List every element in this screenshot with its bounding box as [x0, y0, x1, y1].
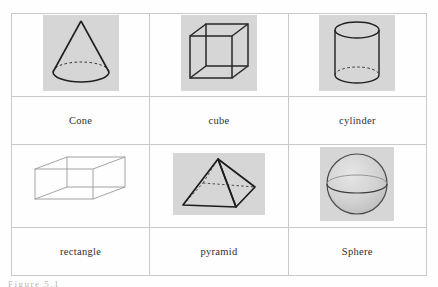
cell-figure-cube — [150, 14, 288, 97]
shape-label: pyramid — [150, 245, 287, 258]
cylinder-icon — [319, 15, 395, 91]
table-row-labels-top: Cone cube cylinder — [12, 97, 427, 145]
cell-label-cylinder: cylinder — [288, 97, 426, 145]
cell-label-pyramid: pyramid — [150, 228, 288, 276]
sphere-icon — [320, 147, 394, 221]
cell-label-rectangle: rectangle — [12, 228, 150, 276]
table-row-figures-top — [12, 14, 427, 97]
cell-figure-rectangle — [12, 145, 150, 228]
cube-icon — [181, 15, 257, 91]
figure-caption: Figure 5.1 — [8, 279, 60, 287]
cone-icon — [43, 15, 119, 91]
cell-label-cone: Cone — [12, 97, 150, 145]
cell-figure-cone — [12, 14, 150, 97]
shape-label: cube — [150, 114, 287, 127]
cell-figure-sphere — [288, 145, 426, 228]
cell-figure-pyramid — [150, 145, 288, 228]
shape-label: Cone — [12, 114, 149, 127]
table-row-figures-bottom — [12, 145, 427, 228]
shapes-table: Cone cube cylinder — [11, 13, 427, 276]
cell-label-cube: cube — [150, 97, 288, 145]
shape-label: Sphere — [289, 245, 426, 258]
shape-label: cylinder — [289, 114, 426, 127]
cell-label-sphere: Sphere — [288, 228, 426, 276]
scanned-page: Cone cube cylinder — [0, 0, 438, 287]
table-row-labels-bottom: rectangle pyramid Sphere — [12, 228, 427, 276]
shape-label: rectangle — [12, 245, 149, 258]
square-pyramid-icon — [173, 153, 265, 215]
cell-figure-cylinder — [288, 14, 426, 97]
rectangular-prism-icon — [27, 151, 135, 217]
